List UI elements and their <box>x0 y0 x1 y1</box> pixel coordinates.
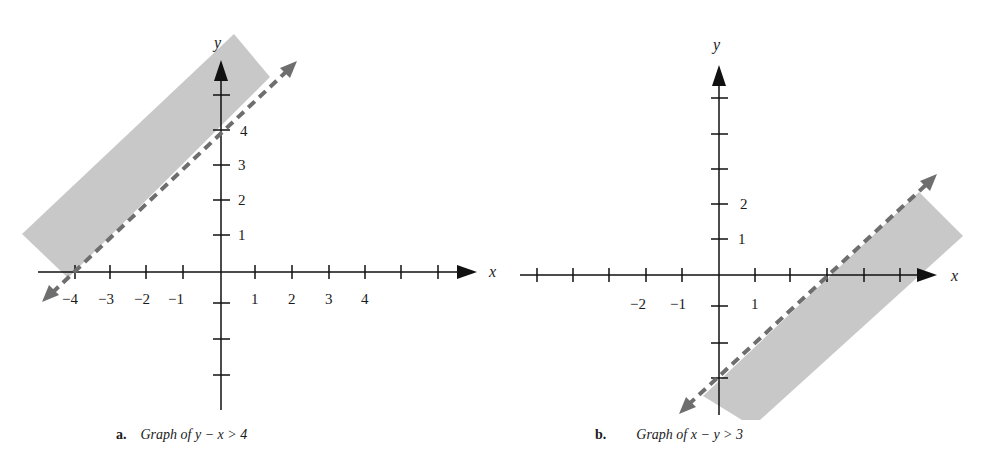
graph-b-x-label-2: 1 <box>751 296 759 312</box>
graph-b-y-axis-label: y <box>711 36 721 54</box>
graph-a-caption-text: Graph of y − x > 4 <box>141 427 248 442</box>
graph-b-x-label-1: −1 <box>670 296 686 312</box>
graph-a-caption: a.Graph of y − x > 4 <box>116 427 247 443</box>
graph-b-caption-text: Graph of x − y > 3 <box>636 427 743 442</box>
graph-b-y-axis-arrow-icon <box>712 65 726 86</box>
graph-a-caption-letter: a. <box>116 427 127 442</box>
graph-b-x-label-0: −2 <box>630 296 646 312</box>
graph-b-shaded-region <box>703 192 963 420</box>
graph-b-x-axis-label: x <box>950 267 958 284</box>
graph-b-caption-letter: b. <box>595 427 606 442</box>
graph-b-caption: b.Graph of x − y > 3 <box>595 427 743 443</box>
graph-b-y-label-1: 2 <box>740 196 748 212</box>
graph-b-y-label-0: 1 <box>738 231 746 247</box>
graph-b: −2 −1 1 1 2 x y <box>0 0 997 467</box>
graph-b-x-axis-arrow-icon <box>917 268 937 282</box>
